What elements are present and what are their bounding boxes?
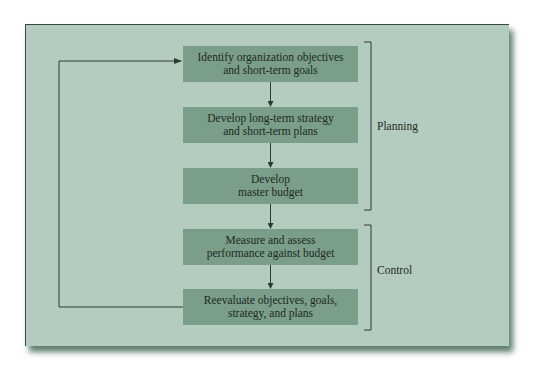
planning-label: Planning [377,120,418,132]
feedback-loop-arrow-icon [59,61,183,307]
connector-lines [26,25,509,346]
planning-bracket [364,42,371,210]
diagram-panel: Identify organization objectives and sho… [25,24,509,346]
control-bracket [364,225,371,330]
control-label: Control [377,264,412,276]
